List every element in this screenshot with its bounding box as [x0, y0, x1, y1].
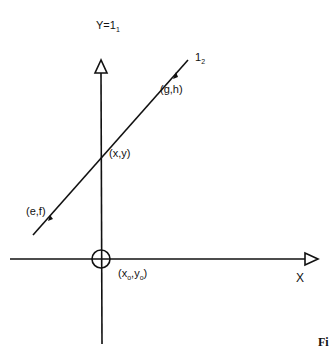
- figure-caption-fragment: Fi: [318, 336, 329, 348]
- point-xy-label: (x,y): [109, 148, 130, 159]
- y-axis-arrowhead-icon: [95, 60, 107, 73]
- origin-label-open: (x: [118, 267, 127, 279]
- y-axis-label-main: Y=1: [96, 19, 116, 31]
- line-l2-label-sub: 2: [201, 58, 205, 65]
- line-l2-label: 12: [195, 52, 205, 65]
- point-ef-label: (e,f): [26, 206, 46, 217]
- diagram-canvas: [0, 0, 329, 359]
- origin-label-mid: ,y: [131, 267, 140, 279]
- y-axis-label-sub: 1: [116, 26, 120, 33]
- origin-label: (xo,yo): [118, 268, 147, 281]
- y-axis: [101, 72, 102, 344]
- origin-label-close: ): [144, 267, 148, 279]
- x-axis-label: X: [296, 272, 304, 284]
- point-gh-label: (g,h): [160, 84, 183, 95]
- y-axis-label: Y=11: [96, 20, 120, 33]
- x-axis-arrowhead-icon: [305, 253, 318, 265]
